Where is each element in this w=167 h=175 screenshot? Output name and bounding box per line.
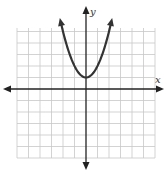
curve-right-arrow — [107, 18, 114, 27]
x-axis-label: x — [155, 74, 161, 85]
x-axis-left-arrow — [3, 86, 11, 93]
y-axis-label: y — [89, 6, 96, 17]
x-axis-right-arrow — [156, 86, 164, 93]
curve-left-arrow — [58, 18, 65, 27]
coordinate-plane: x y — [0, 0, 167, 175]
y-axis-bottom-arrow — [83, 162, 90, 170]
y-axis-top-arrow — [83, 6, 90, 14]
axes — [3, 6, 164, 170]
